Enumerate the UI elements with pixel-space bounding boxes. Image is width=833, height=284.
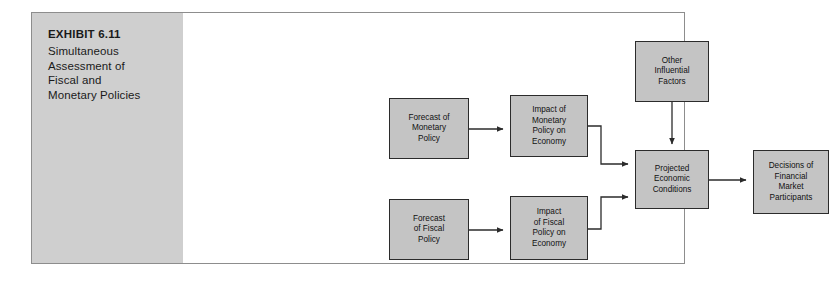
edge-impact-fiscal-to-projected [588, 197, 628, 229]
node-projected-economic-conditions[interactable]: Projected Economic Conditions [635, 150, 709, 209]
edge-impact-monetary-to-projected [588, 126, 628, 164]
exhibit-number: EXHIBIT 6.11 [48, 27, 176, 42]
node-label: Decisions of Financial Market Participan… [769, 161, 814, 203]
exhibit-caption-panel: EXHIBIT 6.11 Simultaneous Assessment of … [32, 13, 183, 263]
node-other-influential-factors[interactable]: Other Influential Factors [635, 41, 709, 102]
node-label: Forecast of Monetary Policy [409, 113, 450, 145]
node-label: Impact of Monetary Policy on Economy [532, 105, 566, 147]
node-label: Other Influential Factors [654, 56, 689, 88]
node-label: Projected Economic Conditions [653, 164, 692, 196]
exhibit-title: Simultaneous Assessment of Fiscal and Mo… [48, 44, 176, 102]
caption-inner: EXHIBIT 6.11 Simultaneous Assessment of … [48, 27, 176, 102]
node-decisions-of-financial-market-participants[interactable]: Decisions of Financial Market Participan… [753, 150, 829, 214]
node-label: Forecast of Fiscal Policy [413, 214, 445, 246]
node-label: Impact of Fiscal Policy on Economy [532, 207, 566, 249]
diagram-area: Forecast of Monetary Policy Impact of Mo… [183, 13, 684, 263]
node-forecast-of-monetary-policy[interactable]: Forecast of Monetary Policy [389, 98, 469, 159]
connector-arrows [183, 13, 833, 284]
node-forecast-of-fiscal-policy[interactable]: Forecast of Fiscal Policy [389, 199, 469, 260]
node-impact-of-fiscal-policy-on-economy[interactable]: Impact of Fiscal Policy on Economy [510, 196, 588, 260]
node-impact-of-monetary-policy-on-economy[interactable]: Impact of Monetary Policy on Economy [510, 95, 588, 157]
